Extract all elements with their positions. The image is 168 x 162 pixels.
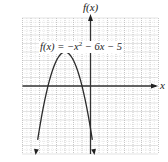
y-axis-arrow-icon [88,14,93,21]
equation-neg: − [67,41,74,52]
equation-rest: − 6x − 5 [82,41,122,52]
parabola-graph [0,0,168,162]
equation-lhs: f(x) = [40,41,67,52]
equation-label: f(x) = −x2 − 6x − 5 [39,41,123,53]
x-axis-label: x [160,80,165,91]
y-axis-label: f(x) [83,2,98,13]
